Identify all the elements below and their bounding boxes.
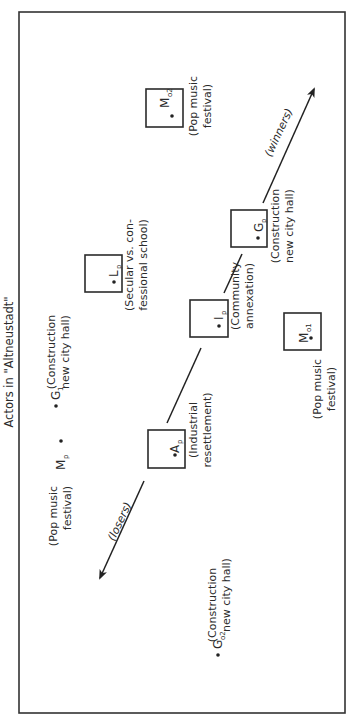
actor-l-p: L p (Secular vs. con- fessional school) [85, 219, 150, 311]
actor-symbol: A [168, 444, 182, 453]
actor-label-line2: new city hall) [59, 315, 72, 389]
actor-label-line2: annexation) [243, 263, 256, 329]
actor-dot [217, 324, 221, 328]
actor-symbol: M [54, 460, 68, 470]
actor-symbol: I [212, 316, 226, 320]
actor-label-line1: (Construction [269, 189, 282, 263]
actor-a-p: A p (Industrial resettlement) [148, 392, 214, 468]
actor-box [284, 313, 321, 350]
actor-label-line2: new city hall) [283, 189, 296, 263]
actor-label-line2: festival) [325, 367, 338, 411]
diagram-title: Actors in "Altneustadt" [2, 296, 16, 427]
losers-label: (losers) [105, 500, 134, 543]
actor-dot [54, 404, 58, 408]
actor-g-1: G 1 (Construction new city hall) [45, 315, 72, 408]
actor-dot [170, 114, 174, 118]
actor-subscript: p [220, 310, 228, 315]
actor-label-line2: festival) [201, 84, 214, 128]
actor-label-line1: (Construction [45, 315, 58, 389]
winners-label: (winners) [262, 106, 296, 158]
actor-label-line1: (Pop music [47, 486, 60, 546]
actor-label-line2: new city hall) [220, 558, 233, 632]
actor-g-p: G p (Construction new city hall) [231, 189, 296, 263]
actor-subscript: o2 [166, 88, 174, 97]
actor-label-line1: (Secular vs. con- [123, 219, 136, 311]
actor-label-line1: (Construction [206, 568, 219, 642]
actor-label-line1: (Industrial [187, 402, 200, 458]
actor-dot [112, 280, 116, 284]
actor-label-line1: (Pop music [311, 359, 324, 419]
actor-i-p: I p (Community annexation) [190, 262, 256, 337]
actor-symbol: L [107, 270, 121, 277]
actor-subscript: p [62, 454, 70, 459]
actor-dot [256, 236, 260, 240]
actor-symbol: M [297, 333, 311, 343]
actor-label-line2: fessional school) [137, 219, 150, 311]
actor-label-line1: (Pop music [187, 76, 200, 136]
actors-diagram: Actors in "Altneustadt" (winners) (loser… [0, 0, 347, 720]
actor-g-o2: G o2 (Construction new city hall) [206, 558, 233, 657]
actor-dot [216, 653, 220, 657]
actor-m-o1: M o1 (Pop music festival) [284, 313, 338, 419]
actor-label-line1: (Community [229, 262, 242, 330]
actor-subscript: p [176, 439, 184, 444]
actor-label-line2: festival) [61, 486, 74, 530]
actor-symbol: G [252, 223, 266, 232]
actor-symbol: G [49, 391, 63, 400]
actor-symbol: M [158, 98, 172, 108]
actor-subscript: p [115, 264, 123, 269]
actor-subscript: p [260, 218, 268, 223]
actor-m-p: M p (Pop music festival) [47, 439, 74, 546]
actor-label-line2: resettlement) [201, 392, 214, 467]
actor-m-o2: M o2 (Pop music festival) [146, 76, 214, 136]
actor-dot [59, 439, 63, 443]
actor-subscript: o1 [305, 323, 313, 332]
